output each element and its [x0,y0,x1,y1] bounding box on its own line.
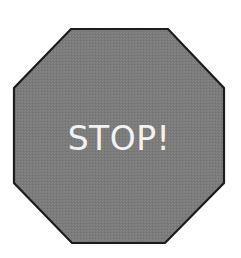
octagon-icon: STOP! [0,0,241,258]
stop-label: STOP! [68,119,171,158]
stop-sign: STOP! [0,0,241,258]
